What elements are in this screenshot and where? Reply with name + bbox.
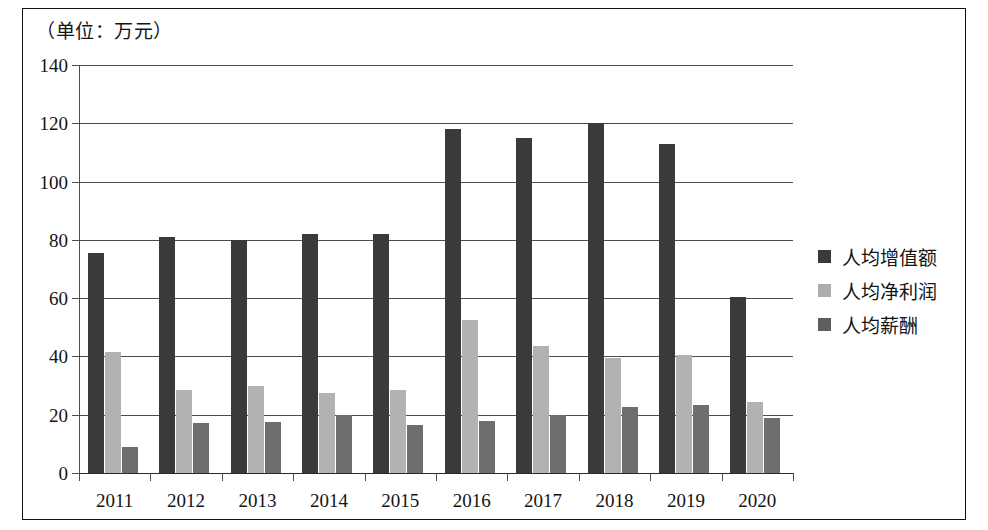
y-tick-mark-60 bbox=[72, 298, 79, 299]
gridline-60 bbox=[79, 298, 793, 299]
legend-label: 人均增值额 bbox=[842, 243, 937, 270]
y-tick-mark-40 bbox=[72, 356, 79, 357]
y-axis-tick-label: 40 bbox=[49, 347, 68, 366]
x-tick-mark bbox=[293, 473, 294, 481]
bar bbox=[159, 237, 175, 473]
bar bbox=[302, 234, 318, 473]
x-axis-tick-label: 2016 bbox=[453, 490, 491, 512]
x-tick-mark bbox=[150, 473, 151, 481]
x-axis-tick-label: 2015 bbox=[381, 490, 419, 512]
bar bbox=[248, 386, 264, 473]
bar bbox=[88, 253, 104, 473]
legend-item: 人均薪酬 bbox=[818, 307, 937, 341]
legend-item: 人均净利润 bbox=[818, 273, 937, 307]
legend-label: 人均薪酬 bbox=[842, 311, 918, 338]
legend-swatch-icon bbox=[818, 318, 831, 331]
gridline-100 bbox=[79, 182, 793, 183]
bar bbox=[336, 415, 352, 473]
bar bbox=[605, 358, 621, 473]
bar bbox=[533, 346, 549, 473]
x-axis-tick-label: 2011 bbox=[96, 490, 133, 512]
x-tick-mark bbox=[722, 473, 723, 481]
y-axis-tick-label: 120 bbox=[40, 114, 69, 133]
bar bbox=[193, 423, 209, 473]
bar bbox=[462, 320, 478, 473]
chart-legend: 人均增值额人均净利润人均薪酬 bbox=[818, 239, 937, 341]
legend-swatch-icon bbox=[818, 250, 831, 263]
bar bbox=[622, 407, 638, 473]
bar bbox=[747, 402, 763, 473]
bar bbox=[693, 405, 709, 473]
x-tick-mark bbox=[79, 473, 80, 481]
y-axis-tick-label: 0 bbox=[59, 464, 69, 483]
bar bbox=[730, 297, 746, 473]
x-tick-mark bbox=[579, 473, 580, 481]
bar bbox=[659, 144, 675, 473]
x-tick-mark bbox=[365, 473, 366, 481]
gridline-120 bbox=[79, 123, 793, 124]
unit-note: （单位：万元） bbox=[36, 16, 173, 43]
gridline-140 bbox=[79, 65, 793, 66]
bar bbox=[479, 421, 495, 473]
bar bbox=[231, 240, 247, 473]
bar bbox=[516, 138, 532, 473]
x-tick-mark bbox=[436, 473, 437, 481]
gridline-80 bbox=[79, 240, 793, 241]
x-axis-tick-label: 2018 bbox=[596, 490, 634, 512]
x-axis-tick-label: 2012 bbox=[167, 490, 205, 512]
y-axis-line bbox=[79, 65, 80, 473]
bar bbox=[445, 129, 461, 473]
y-tick-mark-100 bbox=[72, 182, 79, 183]
bar bbox=[122, 447, 138, 473]
x-tick-mark bbox=[222, 473, 223, 481]
bar bbox=[550, 415, 566, 473]
x-tick-mark bbox=[650, 473, 651, 481]
bar bbox=[764, 418, 780, 473]
y-tick-mark-80 bbox=[72, 240, 79, 241]
y-axis-tick-label: 100 bbox=[40, 172, 69, 191]
x-tick-mark bbox=[793, 473, 794, 481]
plot-area: 020406080100120140 201120122013201420152… bbox=[79, 65, 793, 473]
x-tick-mark bbox=[507, 473, 508, 481]
bar bbox=[176, 390, 192, 473]
y-axis-tick-label: 60 bbox=[49, 289, 68, 308]
y-tick-mark-20 bbox=[72, 415, 79, 416]
bar bbox=[319, 393, 335, 473]
y-axis-tick-label: 140 bbox=[40, 56, 69, 75]
legend-swatch-icon bbox=[818, 284, 831, 297]
chart-figure: （单位：万元） 020406080100120140 2011201220132… bbox=[0, 0, 988, 530]
y-axis-tick-label: 20 bbox=[49, 405, 68, 424]
bar bbox=[105, 352, 121, 473]
bar bbox=[390, 390, 406, 473]
x-axis-tick-label: 2019 bbox=[667, 490, 705, 512]
x-axis-tick-label: 2017 bbox=[524, 490, 562, 512]
bar bbox=[588, 123, 604, 473]
y-axis-tick-label: 80 bbox=[49, 230, 68, 249]
y-tick-mark-120 bbox=[72, 123, 79, 124]
y-tick-mark-0 bbox=[72, 473, 79, 474]
legend-label: 人均净利润 bbox=[842, 277, 937, 304]
bar bbox=[676, 355, 692, 473]
bar bbox=[407, 425, 423, 473]
x-axis-tick-label: 2020 bbox=[738, 490, 776, 512]
y-tick-mark-140 bbox=[72, 65, 79, 66]
x-axis-tick-label: 2013 bbox=[239, 490, 277, 512]
bar bbox=[265, 422, 281, 473]
x-axis-tick-label: 2014 bbox=[310, 490, 348, 512]
legend-item: 人均增值额 bbox=[818, 239, 937, 273]
bar bbox=[373, 234, 389, 473]
